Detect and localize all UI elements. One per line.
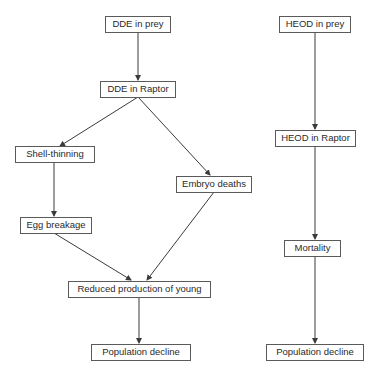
edge-egg-to-reduced	[54, 233, 131, 280]
node-dde-in-prey: DDE in prey	[105, 16, 171, 33]
node-dde-in-raptor: DDE in Raptor	[100, 81, 176, 98]
node-population-decline-right: Population decline	[266, 344, 364, 361]
node-embryo-deaths: Embryo deaths	[176, 176, 252, 193]
node-population-decline-left: Population decline	[91, 344, 191, 361]
node-mortality: Mortality	[284, 240, 341, 257]
edge-embryo-to-reduced	[147, 192, 214, 280]
node-egg-breakage: Egg breakage	[20, 217, 92, 234]
edge-raptor-to-embryo	[138, 97, 210, 175]
node-heod-in-prey: HEOD in prey	[279, 16, 351, 33]
node-shell-thinning: Shell-thinning	[15, 146, 95, 163]
node-reduced-production-of-young: Reduced production of young	[68, 281, 211, 298]
node-heod-in-raptor: HEOD in Raptor	[275, 130, 356, 147]
edge-raptor-to-shell	[60, 97, 138, 146]
